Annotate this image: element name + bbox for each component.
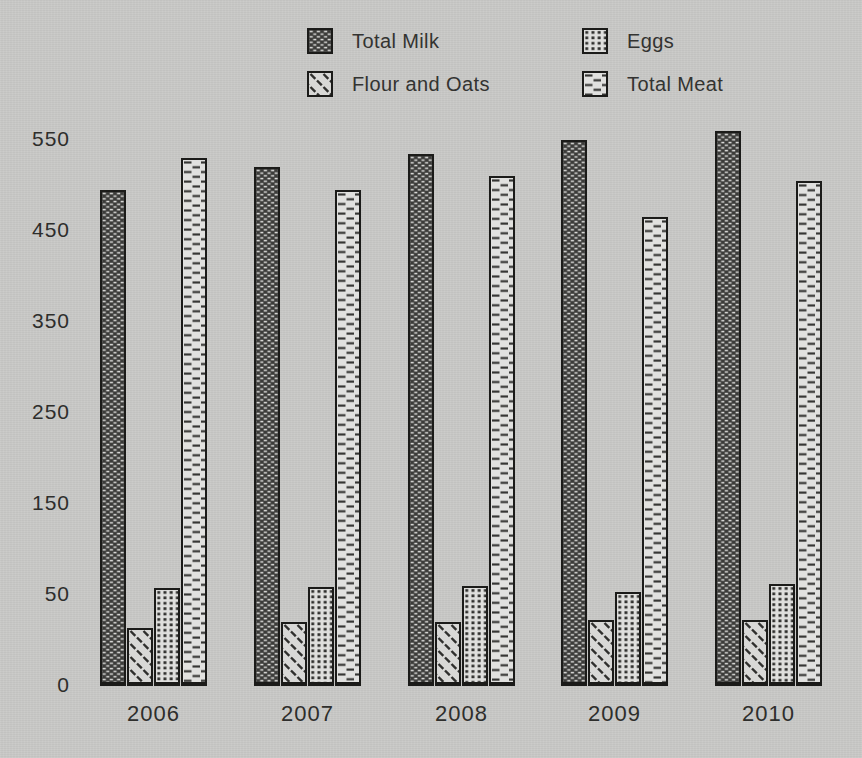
bar-meat-2006	[181, 158, 207, 686]
eggs-pattern-swatch-icon	[582, 28, 608, 54]
legend-label-eggs: Eggs	[627, 30, 674, 53]
y-tick-label-150: 150	[0, 491, 70, 515]
legend-label-meat: Total Meat	[627, 73, 723, 96]
bar-flour-2006	[127, 628, 153, 686]
bar-eggs-2010	[769, 584, 795, 686]
x-tick-label-2009: 2009	[561, 701, 668, 727]
x-tick-label-2008: 2008	[408, 701, 515, 727]
legend-label-milk: Total Milk	[352, 30, 439, 53]
legend-label-flour: Flour and Oats	[352, 73, 490, 96]
bar-meat-2010	[796, 181, 822, 686]
y-tick-label-550: 550	[0, 127, 70, 151]
milk-pattern-swatch-icon	[307, 28, 333, 54]
legend-item-eggs: Eggs	[582, 28, 674, 54]
bar-flour-2010	[742, 620, 768, 686]
bar-flour-2007	[281, 622, 307, 686]
bar-meat-2007	[335, 190, 361, 686]
bar-flour-2008	[435, 622, 461, 686]
x-tick-label-2010: 2010	[715, 701, 822, 727]
y-tick-label-450: 450	[0, 218, 70, 242]
bar-eggs-2006	[154, 588, 180, 686]
legend-item-meat: Total Meat	[582, 71, 723, 97]
legend-item-flour: Flour and Oats	[307, 71, 490, 97]
y-tick-label-250: 250	[0, 400, 70, 424]
flour-pattern-swatch-icon	[307, 71, 333, 97]
bar-eggs-2007	[308, 587, 334, 686]
bar-milk-2009	[561, 140, 587, 686]
bar-milk-2008	[408, 154, 434, 686]
y-tick-label-0: 0	[0, 673, 70, 697]
bar-group-2009	[561, 140, 668, 686]
x-tick-label-2007: 2007	[254, 701, 361, 727]
meat-pattern-swatch-icon	[582, 71, 608, 97]
x-tick-label-2006: 2006	[100, 701, 207, 727]
y-tick-label-50: 50	[0, 582, 70, 606]
bar-flour-2009	[588, 620, 614, 686]
bar-milk-2010	[715, 131, 741, 686]
legend-item-milk: Total Milk	[307, 28, 439, 54]
chart-canvas: Total MilkFlour and OatsEggsTotal Meat 0…	[0, 0, 862, 758]
bar-meat-2008	[489, 176, 515, 686]
bar-group-2007	[254, 167, 361, 686]
bar-eggs-2008	[462, 586, 488, 686]
bar-milk-2006	[100, 190, 126, 686]
bar-milk-2007	[254, 167, 280, 686]
bar-eggs-2009	[615, 592, 641, 686]
bar-meat-2009	[642, 217, 668, 686]
y-tick-label-350: 350	[0, 309, 70, 333]
bar-group-2010	[715, 131, 822, 686]
bar-group-2006	[100, 158, 207, 686]
bar-group-2008	[408, 154, 515, 686]
